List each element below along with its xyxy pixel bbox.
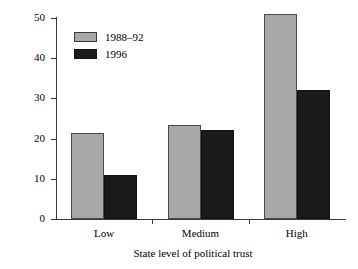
bar-medium-1996 — [201, 130, 234, 219]
x-tick-label-high: High — [257, 227, 337, 240]
legend-item: 1996 — [74, 47, 184, 61]
chart-legend: 1988–921996 — [74, 30, 184, 64]
legend-label: 1988–92 — [105, 31, 144, 43]
x-axis-label: State level of political trust — [40, 247, 346, 260]
bar-low-1996 — [104, 175, 137, 219]
y-axis-label: High turnout (% of states) — [16, 222, 32, 269]
y-tick-mark — [51, 219, 56, 220]
legend-label: 1996 — [105, 48, 127, 60]
legend-swatch-icon — [74, 49, 97, 59]
bar-high-1996 — [297, 90, 330, 219]
y-tick-label: 20 — [5, 133, 47, 144]
x-tick-label-medium: Medium — [161, 227, 241, 240]
legend-swatch-icon — [74, 32, 97, 42]
legend-item: 1988–92 — [74, 30, 184, 44]
x-tick-mark — [152, 220, 153, 224]
bar-high-198892 — [264, 14, 297, 219]
x-tick-mark — [249, 220, 250, 224]
x-axis-line — [56, 219, 346, 220]
y-tick-label: 50 — [5, 12, 47, 23]
y-tick-label: 30 — [5, 92, 47, 103]
y-tick-label: 10 — [5, 173, 47, 184]
y-tick-label: 40 — [5, 52, 47, 63]
bar-chart-figure: High turnout (% of states) 01020304050 L… — [0, 0, 358, 269]
bar-medium-198892 — [168, 125, 201, 219]
bar-low-198892 — [71, 133, 104, 219]
x-tick-label-low: Low — [64, 227, 144, 240]
y-tick-label: 0 — [5, 213, 47, 224]
